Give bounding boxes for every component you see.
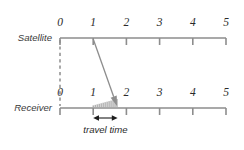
axes-group — [60, 38, 226, 115]
receiver-tick-label-5: 5 — [223, 86, 229, 98]
signal-travel-line — [93, 39, 113, 97]
travel-time-arrowhead-left — [93, 115, 99, 121]
satellite-tick-label-5: 5 — [223, 16, 229, 28]
receiver-tick-label-2: 2 — [124, 86, 130, 98]
receiver-tick-label-1: 1 — [90, 86, 96, 98]
satellite-tick-label-0: 0 — [57, 16, 63, 28]
satellite-axis-label: Satellite — [18, 32, 52, 43]
travel-time-arrowhead-right — [112, 115, 118, 121]
signal-travel-arrow — [93, 39, 117, 106]
satellite-tick-label-1: 1 — [90, 16, 96, 28]
travel-time-label: travel time — [83, 124, 127, 135]
satellite-tick-label-3: 3 — [156, 16, 163, 28]
receiver-tick-label-4: 4 — [190, 86, 196, 98]
figure-canvas: 012345Satellite012345Receivertravel time — [0, 0, 244, 150]
figure-text-layer: 012345Satellite012345Receivertravel time — [14, 16, 229, 135]
travel-time-measure — [93, 115, 117, 121]
signal-travel-arrowhead — [111, 96, 117, 106]
receiver-axis-label: Receiver — [14, 102, 53, 113]
travel-time-figure: 012345Satellite012345Receivertravel time — [0, 0, 244, 150]
satellite-tick-label-2: 2 — [124, 16, 130, 28]
receiver-tick-label-3: 3 — [156, 86, 163, 98]
receiver-tick-label-0: 0 — [57, 86, 63, 98]
satellite-tick-label-4: 4 — [190, 16, 196, 28]
